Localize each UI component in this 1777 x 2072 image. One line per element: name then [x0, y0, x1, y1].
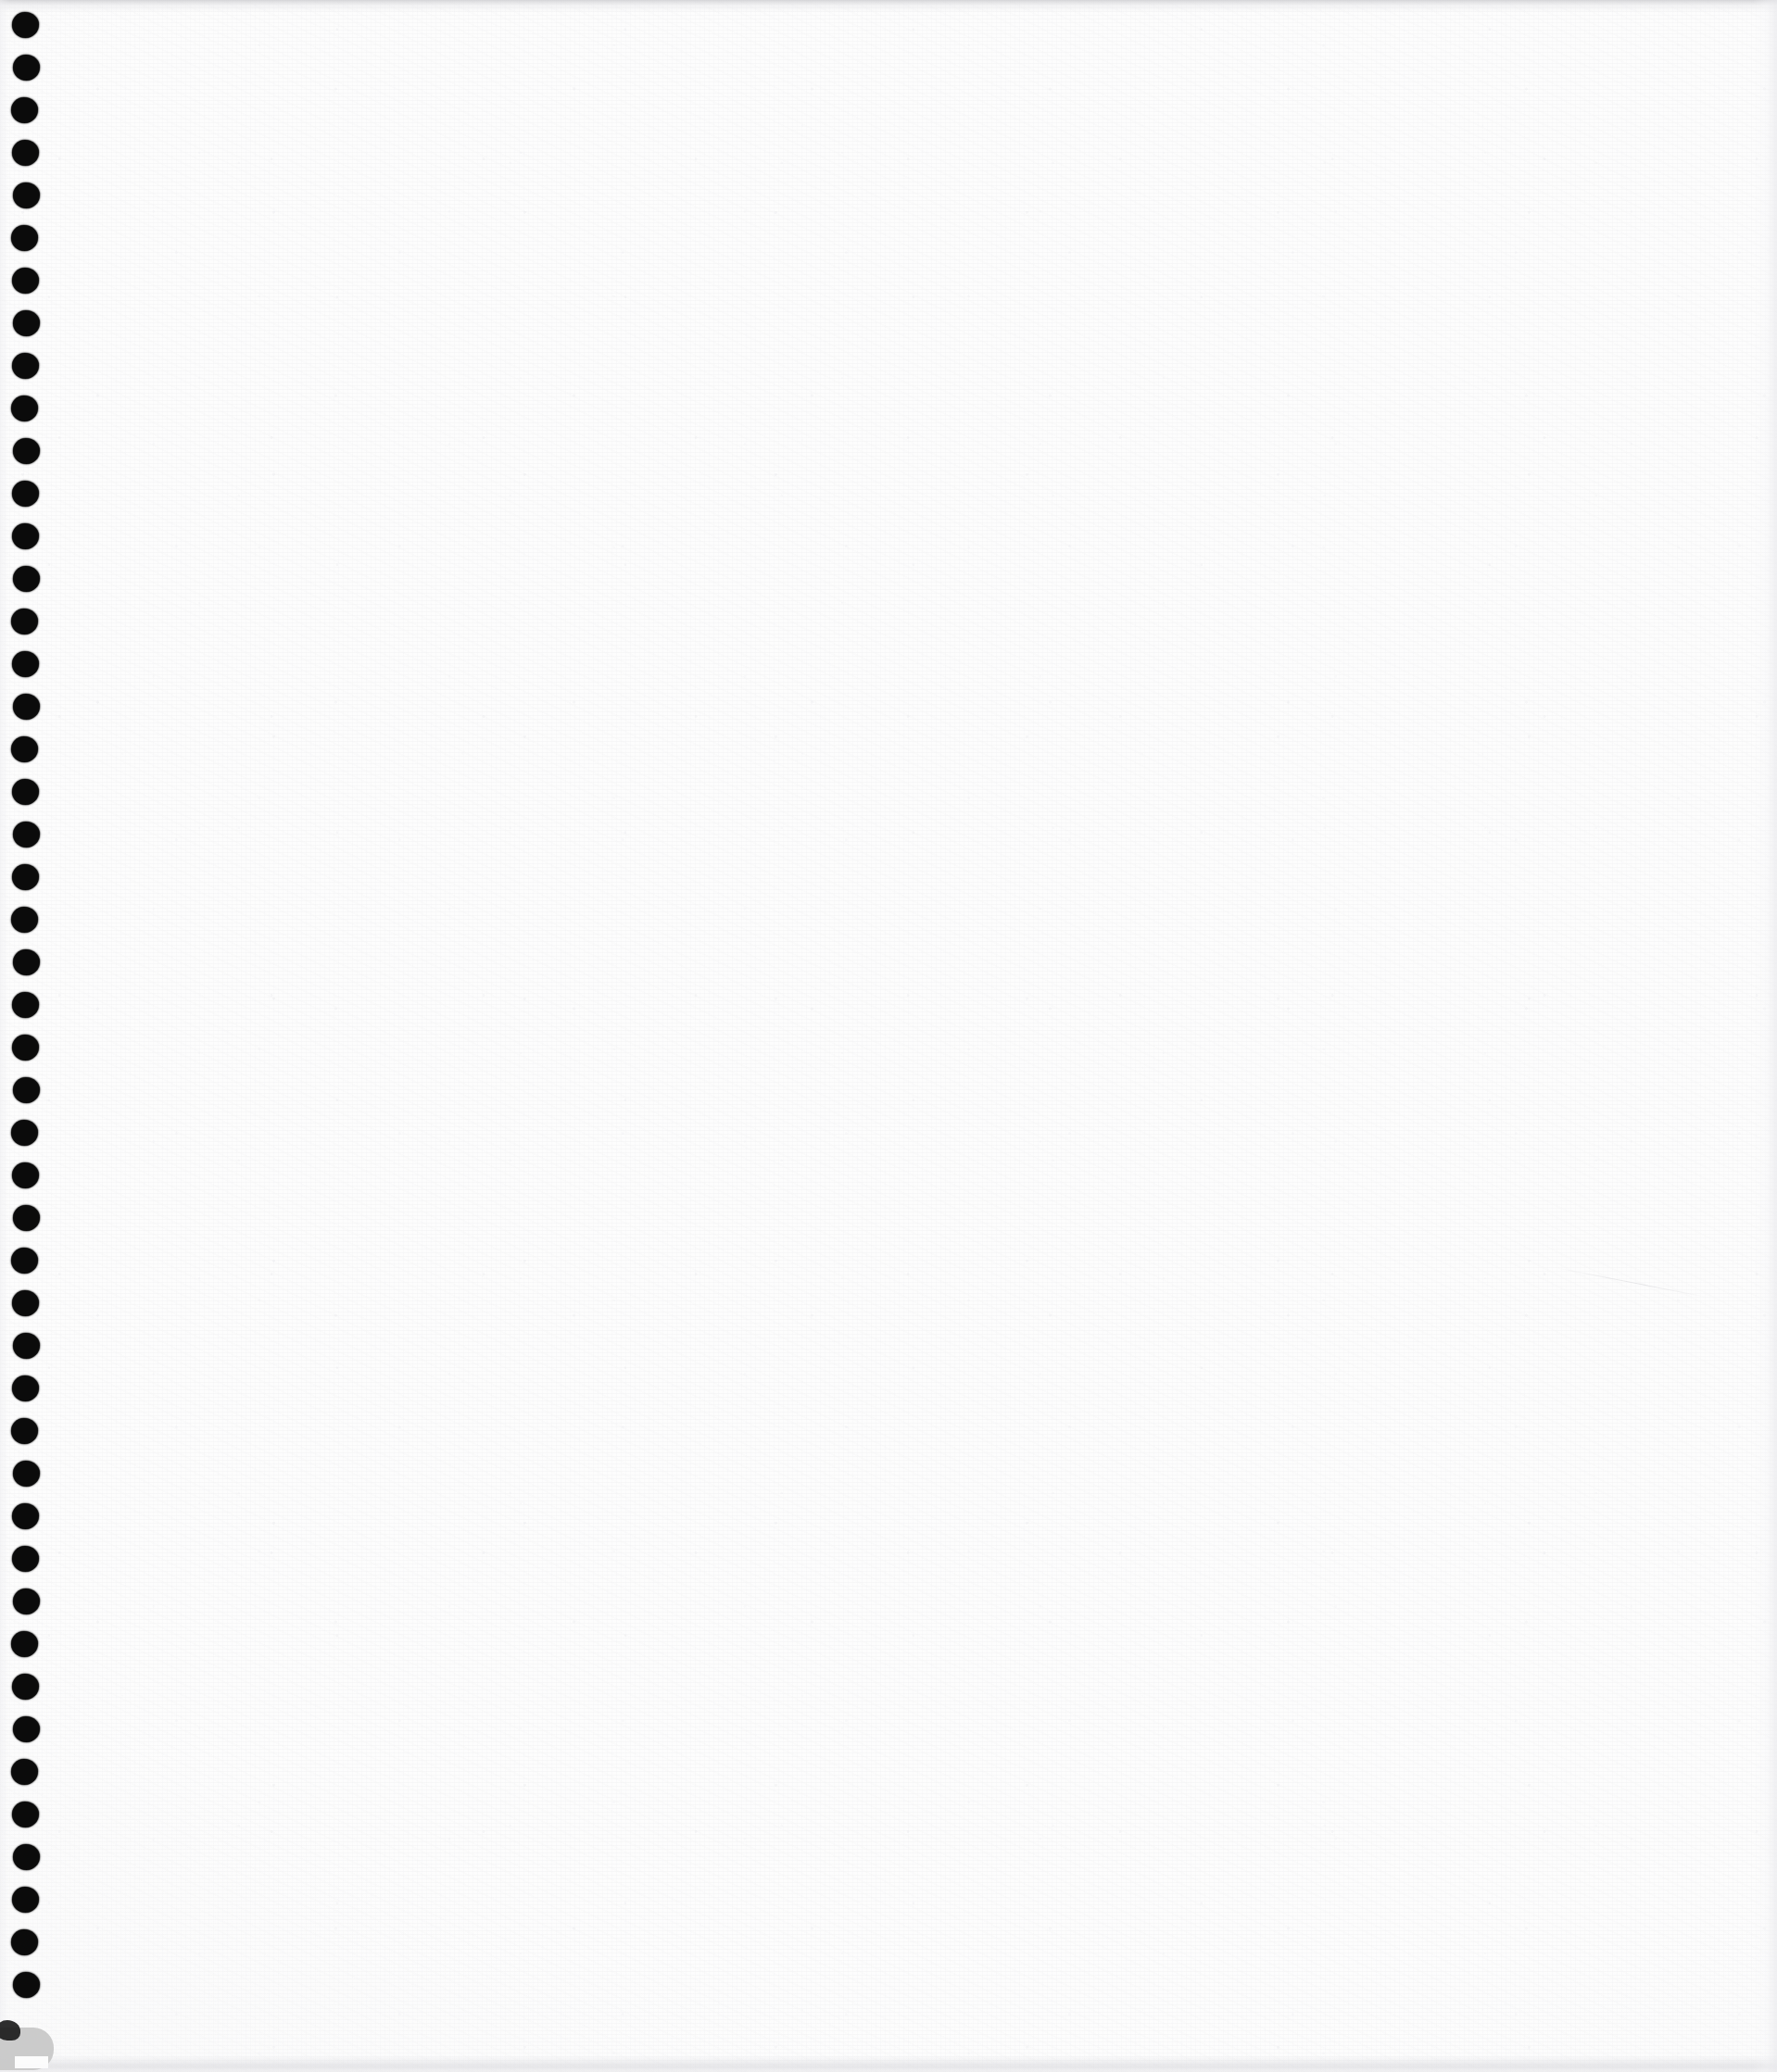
binding-hole	[13, 1333, 40, 1359]
paper-crease-artifact	[1555, 1258, 1721, 1306]
binding-hole	[12, 1035, 39, 1061]
binding-hole	[11, 1759, 38, 1785]
binding-hole	[13, 694, 40, 720]
binding-hole	[13, 310, 40, 336]
corner-fold-notch	[15, 2056, 48, 2068]
binding-hole	[13, 1972, 40, 1998]
binding-hole	[12, 353, 39, 379]
page-edge-shadow-top	[0, 0, 1777, 13]
page-edge-shadow-bottom	[0, 2055, 1777, 2072]
binding-hole	[13, 822, 40, 848]
binding-hole	[13, 566, 40, 592]
binding-hole	[12, 779, 39, 805]
binding-hole	[13, 1716, 40, 1742]
binding-hole	[12, 1546, 39, 1572]
binding-hole	[12, 1375, 39, 1401]
binding-hole	[13, 1077, 40, 1103]
binding-hole	[11, 736, 38, 762]
binding-hole	[11, 225, 38, 251]
binding-hole	[13, 438, 40, 464]
binding-hole	[12, 864, 39, 890]
binding-hole	[11, 1631, 38, 1657]
binding-hole	[11, 396, 38, 421]
binding-hole	[11, 97, 38, 123]
binding-hole	[13, 1461, 40, 1487]
binding-hole	[11, 1418, 38, 1444]
binding-hole	[12, 1887, 39, 1913]
binding-hole	[12, 481, 39, 507]
binding-hole	[11, 1120, 38, 1146]
binding-hole	[12, 523, 39, 549]
paper-sheet	[0, 0, 1777, 2072]
binding-hole	[12, 12, 39, 38]
binding-hole	[13, 1205, 40, 1231]
paper-grain-texture	[0, 0, 1777, 2072]
binding-hole	[13, 182, 40, 208]
binding-hole	[11, 907, 38, 933]
binding-hole-strip	[0, 0, 56, 2072]
corner-fold-shadow	[0, 2020, 20, 2041]
binding-hole	[12, 268, 39, 294]
paper-speckle-texture	[0, 0, 1777, 2072]
binding-hole	[13, 1844, 40, 1870]
binding-hole	[12, 1674, 39, 1700]
binding-hole	[12, 1162, 39, 1188]
binding-hole	[12, 992, 39, 1018]
binding-hole	[12, 1290, 39, 1316]
binding-hole	[11, 609, 38, 634]
binding-hole	[12, 651, 39, 677]
page-edge-shadow-right	[1753, 0, 1777, 2072]
scan-illumination-gradient	[0, 0, 1777, 2072]
binding-hole	[13, 1589, 40, 1614]
binding-hole	[13, 949, 40, 975]
binding-hole	[13, 55, 40, 81]
scanned-page-canvas	[0, 0, 1777, 2072]
binding-hole	[12, 1802, 39, 1827]
binding-hole	[11, 1248, 38, 1274]
binding-hole	[11, 1929, 38, 1955]
binding-hole	[12, 1503, 39, 1529]
binding-hole	[12, 140, 39, 166]
